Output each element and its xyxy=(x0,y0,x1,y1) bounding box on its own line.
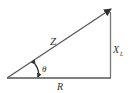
label-r: R xyxy=(56,81,63,92)
label-x: X xyxy=(112,44,120,55)
label-z: Z xyxy=(50,35,57,47)
angle-arc xyxy=(35,64,39,77)
impedance-triangle-diagram: Z X L R θ xyxy=(0,0,131,93)
impedance-vector xyxy=(7,9,111,78)
label-x-subscript: L xyxy=(119,51,124,57)
label-theta: θ xyxy=(42,64,47,74)
